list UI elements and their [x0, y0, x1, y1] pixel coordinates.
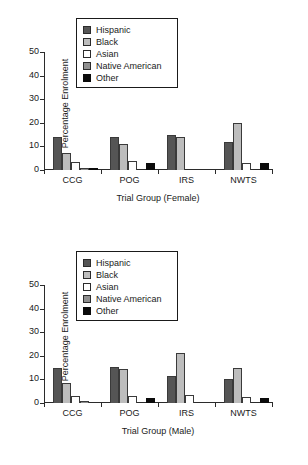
y-tick-label: 10: [29, 139, 39, 152]
bar-other-pog: [146, 163, 155, 170]
dark-gray-swatch: [83, 26, 91, 34]
bar-asian-pog: [128, 161, 137, 170]
x-tick-label-pog: POG: [102, 407, 158, 419]
bar-stack: [53, 285, 98, 403]
bar-stack: [167, 285, 212, 403]
bar-group-ccg: [44, 52, 101, 170]
bar-hispanic-pog: [110, 367, 119, 403]
x-tick-label-ccg: CCG: [45, 407, 101, 419]
x-tick-mark: [272, 169, 273, 174]
legend-item-label: Hispanic: [96, 258, 131, 268]
y-tick-label: 0: [34, 396, 39, 409]
y-tick-label: 30: [29, 92, 39, 105]
y-tick-label: 50: [29, 45, 39, 58]
bar-black-nwts: [233, 368, 242, 403]
bar-asian-ccg: [71, 396, 80, 403]
bar-group-irs: [158, 285, 215, 403]
chart-male: HispanicBlackAsianNative AmericanOther P…: [0, 233, 308, 465]
legend-item-label: Black: [96, 37, 118, 47]
y-tick-label: 40: [29, 69, 39, 82]
bar-group-irs: [158, 52, 215, 170]
bar-asian-pog: [128, 396, 137, 403]
bar-black-irs: [176, 137, 185, 170]
bar-asian-ccg: [71, 162, 80, 170]
bar-stack: [167, 52, 212, 170]
bar-hispanic-pog: [110, 137, 119, 170]
bar-black-nwts: [233, 123, 242, 170]
bar-hispanic-ccg: [53, 137, 62, 170]
bar-black-pog: [119, 369, 128, 403]
x-tick-label-irs: IRS: [159, 174, 215, 186]
y-tick-label: 0: [34, 163, 39, 176]
bar-hispanic-nwts: [224, 142, 233, 170]
y-tick-label: 40: [29, 302, 39, 315]
bar-group-ccg: [44, 285, 101, 403]
x-axis-title: Trial Group (Male): [44, 425, 272, 437]
y-tick-label: 10: [29, 372, 39, 385]
light-gray-swatch: [83, 271, 91, 279]
x-tick-mark: [272, 402, 273, 407]
bar-asian-nwts: [242, 397, 251, 403]
bar-stack: [110, 285, 155, 403]
x-axis-title: Trial Group (Female): [44, 192, 272, 204]
bar-stack: [224, 285, 269, 403]
legend-item-hispanic: Hispanic: [83, 257, 171, 268]
bar-hispanic-ccg: [53, 368, 62, 403]
legend-item-black: Black: [83, 36, 171, 47]
bar-group-nwts: [215, 52, 272, 170]
bar-hispanic-irs: [167, 376, 176, 403]
bar-black-irs: [176, 353, 185, 403]
bar-other-ccg: [89, 168, 98, 170]
bar-asian-irs: [185, 395, 194, 403]
legend-item-label: Hispanic: [96, 25, 131, 35]
plot-area-female: Percentage Enrolment 01020304050CCGPOGIR…: [44, 52, 272, 170]
bar-hispanic-nwts: [224, 379, 233, 403]
y-tick-label: 30: [29, 325, 39, 338]
bar-native-american-ccg: [80, 168, 89, 170]
x-tick-label-irs: IRS: [159, 407, 215, 419]
bar-stack: [224, 52, 269, 170]
legend-item-hispanic: Hispanic: [83, 24, 171, 35]
dark-gray-swatch: [83, 259, 91, 267]
bar-asian-nwts: [242, 163, 251, 170]
legend-item-black: Black: [83, 269, 171, 280]
figure-page: HispanicBlackAsianNative AmericanOther P…: [0, 0, 308, 465]
x-tick-label-pog: POG: [102, 174, 158, 186]
light-gray-swatch: [83, 38, 91, 46]
y-tick-label: 50: [29, 278, 39, 291]
bar-native-american-ccg: [80, 401, 89, 403]
bar-stack: [110, 52, 155, 170]
bar-group-pog: [101, 52, 158, 170]
chart-female: HispanicBlackAsianNative AmericanOther P…: [0, 0, 308, 232]
bar-group-pog: [101, 285, 158, 403]
legend-item-label: Black: [96, 270, 118, 280]
bar-black-pog: [119, 144, 128, 170]
bar-other-pog: [146, 398, 155, 403]
bar-stack: [53, 52, 98, 170]
plot-area-male: Percentage Enrolment 01020304050CCGPOGIR…: [44, 285, 272, 403]
bar-group-nwts: [215, 285, 272, 403]
bar-other-nwts: [260, 163, 269, 170]
y-tick-label: 20: [29, 349, 39, 362]
bar-hispanic-irs: [167, 135, 176, 170]
x-tick-label-ccg: CCG: [45, 174, 101, 186]
bar-black-ccg: [62, 383, 71, 403]
bar-other-nwts: [260, 398, 269, 403]
x-tick-label-nwts: NWTS: [216, 174, 272, 186]
x-tick-label-nwts: NWTS: [216, 407, 272, 419]
bar-black-ccg: [62, 153, 71, 170]
y-tick-label: 20: [29, 116, 39, 129]
